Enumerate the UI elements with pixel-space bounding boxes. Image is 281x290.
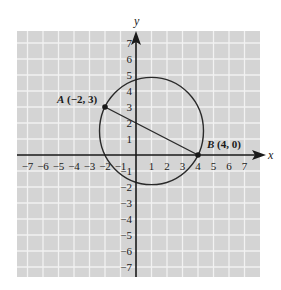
- y-axis-label: y: [133, 14, 140, 28]
- point-a-label: A (−2, 3): [56, 93, 98, 106]
- x-tick-label: −7: [22, 160, 34, 172]
- x-axis-label: x: [267, 148, 274, 162]
- x-tick-label: 3: [180, 160, 186, 172]
- point-b-marker: [195, 152, 201, 158]
- x-tick-label: −6: [37, 160, 49, 172]
- point-a-marker: [102, 104, 108, 110]
- y-tick-label: −2: [120, 181, 132, 193]
- x-tick-label: −5: [53, 160, 65, 172]
- x-tick-label: −4: [68, 160, 80, 172]
- x-tick-label: 4: [195, 160, 201, 172]
- y-tick-label: −3: [120, 197, 132, 209]
- y-tick-label: 5: [127, 69, 133, 81]
- x-tick-label: 1: [149, 160, 155, 172]
- x-tick-label: 2: [164, 160, 170, 172]
- y-tick-label: 4: [127, 85, 133, 97]
- grid-background: [17, 31, 260, 277]
- y-tick-label: 7: [127, 37, 133, 49]
- point-b-label: B (4, 0): [206, 138, 241, 151]
- y-tick-label: −7: [120, 261, 132, 273]
- y-tick-label: −4: [120, 213, 132, 225]
- y-tick-label: −6: [120, 245, 132, 257]
- x-tick-label: 6: [226, 160, 232, 172]
- y-tick-label: 3: [127, 101, 133, 113]
- coordinate-plane-figure: x y −7−6−5−4−3−2−112345677654321−1−2−3−4…: [0, 0, 281, 290]
- x-tick-label: −2: [99, 160, 111, 172]
- x-tick-label: 5: [211, 160, 217, 172]
- y-tick-label: −5: [120, 229, 132, 241]
- x-tick-label: 7: [242, 160, 248, 172]
- y-tick-label: 2: [127, 117, 133, 129]
- y-tick-label: 6: [127, 53, 133, 65]
- x-tick-label: −3: [84, 160, 96, 172]
- y-tick-label: 1: [127, 133, 133, 145]
- y-tick-label: −1: [120, 165, 132, 177]
